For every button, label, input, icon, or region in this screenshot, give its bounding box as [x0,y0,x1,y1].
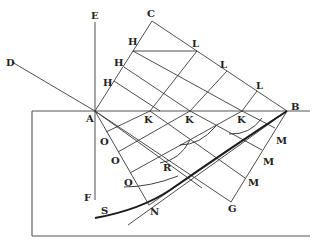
label-d: D [6,57,15,68]
label-b: B [291,101,299,112]
label-s: S [101,205,108,216]
label-h3: H [103,77,112,88]
medium-box [32,111,310,236]
label-a: A [85,113,94,124]
refracted-wavefront-curve [95,111,287,218]
refracted-wavefront-grid [95,111,287,225]
label-e: E [91,10,99,21]
label-l2: L [220,59,227,70]
label-h2: H [114,57,123,68]
label-k1: K [144,114,153,125]
label-h1: H [128,36,137,47]
label-f: F [84,192,91,203]
label-l1: L [192,38,199,49]
label-k3: K [237,114,246,125]
diagram-canvas: E D C A B F G N S R H H H L L L K K K O … [0,0,317,247]
label-c: C [147,8,155,19]
label-m2: M [263,156,274,167]
incident-wavefront-grid [95,21,287,111]
label-g: G [228,203,237,214]
label-k2: K [185,114,194,125]
label-o1: O [100,136,109,147]
label-m3: M [248,177,259,188]
label-l3: L [256,80,263,91]
incident-ray-da [12,62,95,111]
label-o2: O [111,155,120,166]
label-o3: O [124,177,133,188]
label-n: N [150,206,159,217]
label-r: R [163,162,172,173]
label-m1: M [276,135,287,146]
